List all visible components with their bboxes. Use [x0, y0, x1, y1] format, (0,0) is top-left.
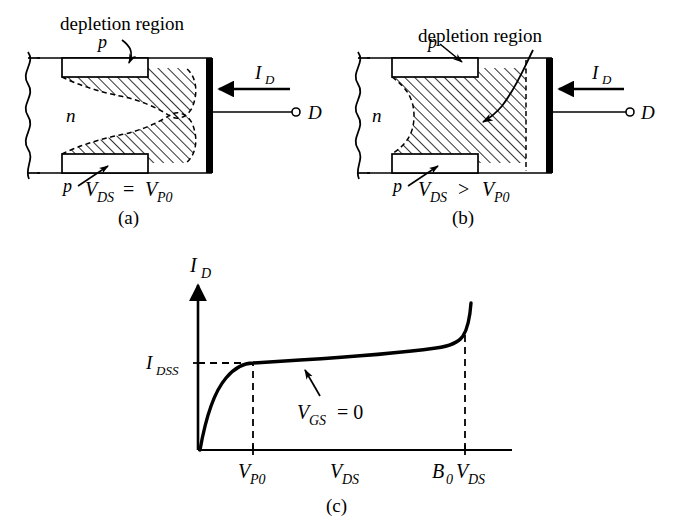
panel-a-p-region-top [62, 58, 148, 77]
panel-b-caption: (b) [452, 207, 474, 229]
svg-text:>: > [458, 178, 469, 200]
svg-text:D: D [264, 72, 275, 87]
panel-a-n-label: n [66, 105, 76, 126]
panel-b-p-region-top [392, 58, 478, 77]
svg-text:DS: DS [429, 190, 447, 205]
svg-text:DS: DS [96, 190, 114, 205]
panel-a-drain-contact [206, 58, 213, 173]
svg-text:P0: P0 [249, 472, 266, 487]
panel-a-p-label-top: p [96, 32, 107, 52]
svg-text:0: 0 [446, 472, 453, 487]
svg-text:= 0: = 0 [337, 401, 363, 423]
panel-b-terminal-label: D [640, 102, 655, 123]
panel-a-p-label-bottom: p [61, 176, 72, 196]
svg-text:P0: P0 [156, 190, 173, 205]
jfet-pinchoff-figure: D I D depletion region p p n V DS = V P0… [0, 0, 678, 524]
svg-text:DS: DS [341, 472, 359, 487]
panel-c-caption: (c) [326, 495, 347, 517]
panel-b-drain-terminal-dot [626, 108, 634, 116]
svg-text:DSS: DSS [155, 363, 179, 378]
panel-b-drain-contact [546, 58, 553, 173]
svg-text:P0: P0 [493, 190, 510, 205]
panel-a-drain-terminal-dot [292, 108, 300, 116]
panel-b-p-label-bottom: p [391, 176, 402, 196]
svg-text:D: D [200, 266, 211, 281]
svg-text:GS: GS [309, 413, 326, 428]
svg-text:D: D [601, 72, 612, 87]
svg-text:DS: DS [467, 472, 485, 487]
svg-text:B: B [432, 460, 444, 482]
panel-a-depletion-label: depletion region [60, 13, 184, 34]
panel-a-terminal-label: D [307, 102, 322, 123]
panel-b-n-label: n [372, 105, 382, 126]
panel-a-caption: (a) [118, 207, 139, 229]
panel-b-p-label-top: p [426, 32, 437, 52]
panel-b-p-region-bottom [392, 154, 478, 173]
panel-a-p-region-bottom [62, 154, 148, 173]
svg-text:=: = [123, 178, 134, 200]
svg-text:I: I [189, 254, 198, 276]
